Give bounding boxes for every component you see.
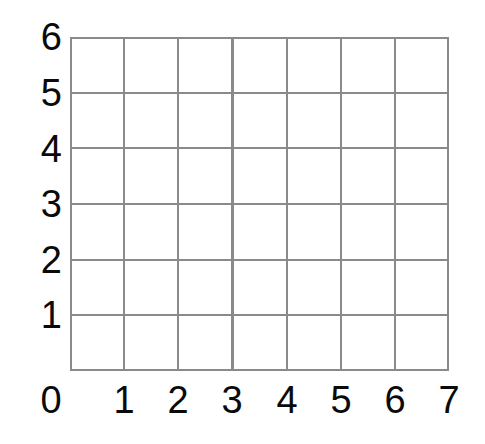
x-tick-label-7: 7 [429, 381, 469, 419]
y-tick-label-1: 1 [22, 296, 62, 334]
x-tick-label-5: 5 [321, 381, 361, 419]
coordinate-grid-figure: 6 5 4 3 2 1 0 1 2 3 4 5 6 7 [0, 0, 485, 444]
y-tick-label-3: 3 [22, 185, 62, 223]
x-tick-label-1: 1 [104, 381, 144, 419]
x-tick-label-3: 3 [212, 381, 252, 419]
x-tick-label-4: 4 [267, 381, 307, 419]
x-tick-label-6: 6 [375, 381, 415, 419]
grid-lines [70, 37, 449, 371]
y-tick-label-4: 4 [22, 130, 62, 168]
y-tick-label-6: 6 [22, 18, 62, 56]
x-tick-label-2: 2 [158, 381, 198, 419]
y-tick-label-5: 5 [22, 74, 62, 112]
y-tick-label-2: 2 [22, 241, 62, 279]
grid-area [70, 37, 449, 371]
x-tick-label-0: 0 [31, 381, 71, 419]
